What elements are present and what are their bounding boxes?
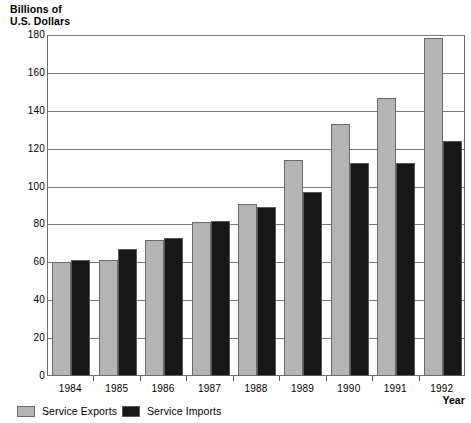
bar-imports-1989 xyxy=(303,192,322,376)
x-axis-tick xyxy=(93,376,94,381)
bar-group-1992 xyxy=(424,35,462,376)
bar-imports-1991 xyxy=(396,163,415,376)
y-axis-tick-label: 0 xyxy=(15,371,45,381)
legend-label-service-exports: Service Exports xyxy=(42,406,117,417)
x-axis-tick xyxy=(326,376,327,381)
bar-imports-1987 xyxy=(211,221,230,376)
bar-exports-1985 xyxy=(99,260,118,377)
legend-item-service-imports: Service Imports xyxy=(122,404,221,418)
bar-imports-1992 xyxy=(443,141,462,376)
bar-exports-1988 xyxy=(238,204,257,376)
bar-exports-1991 xyxy=(377,98,396,376)
y-axis-tick-label: 100 xyxy=(15,182,45,192)
bar-group-1990 xyxy=(331,35,369,376)
bar-group-1986 xyxy=(145,35,183,376)
y-axis-tick-label: 140 xyxy=(15,106,45,116)
bar-group-1991 xyxy=(377,35,415,376)
x-axis-tick-label-1992: 1992 xyxy=(414,383,470,394)
x-axis-tick xyxy=(140,376,141,381)
x-axis-tick xyxy=(279,376,280,381)
y-axis-tick-label: 80 xyxy=(15,219,45,229)
bar-exports-1987 xyxy=(192,222,211,376)
x-axis-title: Year xyxy=(442,394,465,406)
x-axis-tick xyxy=(372,376,373,381)
x-axis-tick xyxy=(233,376,234,381)
bar-exports-1990 xyxy=(331,124,350,376)
bar-exports-1992 xyxy=(424,38,443,376)
y-axis-tick-label: 60 xyxy=(15,257,45,267)
bar-imports-1988 xyxy=(257,207,276,376)
y-axis-tick-label: 40 xyxy=(15,295,45,305)
legend-item-service-exports: Service Exports xyxy=(17,404,117,418)
bar-group-1987 xyxy=(192,35,230,376)
y-axis-tick-label: 160 xyxy=(15,68,45,78)
bar-group-1985 xyxy=(99,35,137,376)
bar-exports-1984 xyxy=(52,262,71,376)
bar-imports-1990 xyxy=(350,163,369,376)
bar-exports-1989 xyxy=(284,160,303,376)
bar-imports-1984 xyxy=(71,260,90,376)
legend-swatch-imports-icon xyxy=(122,406,140,417)
bar-group-1988 xyxy=(238,35,276,376)
services-trade-bar-chart: Billions of U.S. Dollars 180160140120100… xyxy=(0,0,471,423)
bar-group-1984 xyxy=(52,35,90,376)
bar-group-1989 xyxy=(284,35,322,376)
legend-swatch-exports-icon xyxy=(17,406,35,417)
legend-label-service-imports: Service Imports xyxy=(147,406,221,417)
x-axis-tick xyxy=(186,376,187,381)
y-axis-tick-label: 20 xyxy=(15,333,45,343)
bar-imports-1985 xyxy=(118,249,137,376)
x-axis-tick xyxy=(419,376,420,381)
bars-layer xyxy=(47,35,465,376)
y-axis-title: Billions of U.S. Dollars xyxy=(10,3,70,27)
y-axis-tick-label: 180 xyxy=(15,30,45,40)
bar-imports-1986 xyxy=(164,238,183,376)
bar-exports-1986 xyxy=(145,240,164,376)
y-axis-tick-label: 120 xyxy=(15,144,45,154)
